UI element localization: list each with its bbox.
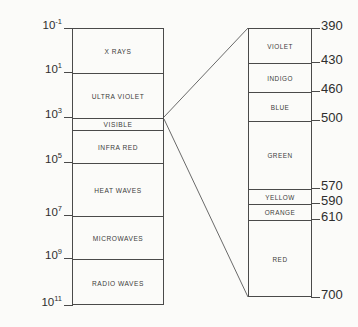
right-axis-tick-label: 500 (321, 111, 343, 124)
band-label: VISIBLE (104, 121, 133, 128)
left-axis-tick-label: 109 (45, 250, 62, 262)
tick-exponent: -1 (55, 17, 62, 26)
band-microwaves: MICROWAVES (73, 216, 163, 259)
tick-exponent: 11 (54, 294, 62, 303)
tick-mantissa: 10 (45, 206, 58, 218)
tick-mantissa: 10 (45, 108, 58, 120)
right-tick-mark (311, 203, 320, 204)
tick-mantissa: 10 (45, 249, 58, 261)
band-visible: VISIBLE (73, 118, 163, 130)
connector-line-top (164, 28, 248, 117)
band-label: HEAT WAVES (94, 187, 141, 194)
band-heat-waves: HEAT WAVES (73, 163, 163, 216)
right-axis-tick-label: 700 (321, 288, 343, 301)
tick-exponent: 9 (58, 247, 62, 256)
left-axis-tick-label: 1011 (41, 297, 62, 309)
right-tick-mark (311, 28, 320, 29)
band-label: GREEN (267, 152, 292, 159)
right-axis-tick-label: 570 (321, 179, 343, 192)
band-red: RED (249, 220, 311, 298)
left-axis-tick-label: 105 (45, 154, 62, 166)
band-blue: BLUE (249, 92, 311, 121)
band-yellow: YELLOW (249, 189, 311, 204)
right-axis-tick-label: 430 (321, 53, 343, 66)
band-infra-red: INFRA RED (73, 130, 163, 163)
left-tick-mark (64, 305, 73, 306)
tick-exponent: 3 (58, 106, 62, 115)
tick-exponent: 7 (58, 204, 62, 213)
band-label: ULTRA VIOLET (92, 93, 145, 100)
band-label: X RAYS (105, 48, 132, 55)
tick-exponent: 1 (58, 61, 62, 70)
left-axis-tick-label: 103 (45, 109, 62, 121)
right-axis-tick-label: 390 (321, 19, 343, 32)
electromagnetic-spectrum-column: X RAYS ULTRA VIOLET VISIBLE INFRA RED HE… (72, 28, 164, 305)
band-ultra-violet: ULTRA VIOLET (73, 73, 163, 118)
left-axis-tick-label: 101 (45, 64, 62, 76)
left-axis-tick-label: 10-1 (43, 20, 62, 32)
band-green: GREEN (249, 121, 311, 189)
tick-mantissa: 10 (43, 19, 56, 31)
band-label: BLUE (271, 104, 290, 111)
band-orange: ORANGE (249, 204, 311, 220)
right-tick-mark (311, 120, 320, 121)
right-tick-mark (311, 91, 320, 92)
band-label: RED (273, 256, 288, 263)
right-tick-mark (311, 188, 320, 189)
left-axis-tick-label: 107 (45, 207, 62, 219)
band-label: RADIO WAVES (92, 280, 144, 287)
band-radio-waves: RADIO WAVES (73, 259, 163, 306)
tick-mantissa: 10 (45, 153, 58, 165)
right-tick-mark (311, 297, 320, 298)
band-x-rays: X RAYS (73, 29, 163, 73)
right-axis-tick-label: 460 (321, 82, 343, 95)
right-axis-tick-label: 590 (321, 194, 343, 207)
tick-exponent: 5 (58, 151, 62, 160)
right-axis-tick-label: 610 (321, 210, 343, 223)
spectrum-diagram: WAVELENGTH (nm) 10-1 101 103 105 107 109… (0, 0, 358, 327)
band-indigo: INDIGO (249, 63, 311, 92)
band-label: MICROWAVES (93, 235, 144, 242)
connector-line-bottom (164, 119, 248, 297)
band-label: VIOLET (267, 43, 293, 50)
band-label: INFRA RED (98, 144, 138, 151)
band-label: INDIGO (267, 75, 293, 82)
tick-mantissa: 10 (41, 296, 54, 308)
band-label: YELLOW (265, 194, 295, 201)
right-tick-mark (311, 62, 320, 63)
tick-mantissa: 10 (45, 63, 58, 75)
right-tick-mark (311, 219, 320, 220)
band-label: ORANGE (265, 209, 296, 216)
band-violet: VIOLET (249, 29, 311, 63)
visible-spectrum-column: VIOLET INDIGO BLUE GREEN YELLOW ORANGE R… (248, 28, 312, 297)
